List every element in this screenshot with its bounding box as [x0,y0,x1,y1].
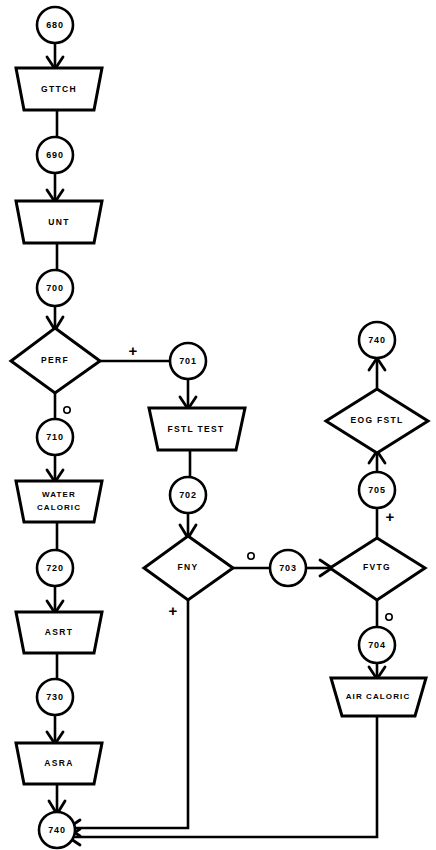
edge-air-740-return [70,716,377,837]
connector-label-720: 720 [46,563,64,573]
connector-node-730[interactable]: 730 [37,679,73,715]
connector-label-705: 705 [368,485,386,495]
process-label-water-caloric-line1: WATER [42,490,76,499]
connector-label-680: 680 [46,20,64,30]
connector-label-740-end: 740 [48,825,66,835]
process-node-air-caloric[interactable]: AIR CALORIC [331,678,426,716]
connector-node-700[interactable]: 700 [37,270,73,306]
connector-node-703[interactable]: 703 [270,550,306,586]
connector-label-703: 703 [279,563,297,573]
branch-marker-fny-zero-icon [248,553,254,559]
flowchart-canvas: GTTCH UNT PERF WATER CALORIC ASRT ASRA [0,0,436,850]
process-node-unt[interactable]: UNT [16,201,102,243]
connector-node-720[interactable]: 720 [37,550,73,586]
process-label-gttch: GTTCH [41,84,77,94]
decision-node-fvtg[interactable]: FVTG [330,538,425,600]
flowchart-diagram: GTTCH UNT PERF WATER CALORIC ASRT ASRA [0,0,436,850]
decision-node-fny[interactable]: FNY [144,536,233,600]
branch-marker-perf-zero-icon [64,407,70,413]
connector-node-701[interactable]: 701 [170,343,206,379]
connector-label-700: 700 [46,283,64,293]
process-label-fstl-test: FSTL TEST [168,424,225,434]
branch-marker-fvtg-zero-icon [386,614,392,620]
connector-node-705[interactable]: 705 [359,472,395,508]
connector-label-710: 710 [46,432,64,442]
branch-label-fny-plus: + [169,602,178,619]
connector-node-740-end[interactable]: 740 [39,812,75,848]
decision-node-perf[interactable]: PERF [11,328,100,393]
branch-label-fvtg-plus: + [386,508,395,525]
decision-label-eog-fstl: EOG FSTL [351,415,404,425]
process-label-water-caloric-line2: CALORIC [37,503,81,512]
decision-label-fvtg: FVTG [363,562,391,572]
decision-label-perf: PERF [41,355,69,365]
process-label-air-caloric: AIR CALORIC [346,692,411,701]
connector-label-704: 704 [368,640,386,650]
process-node-gttch[interactable]: GTTCH [16,68,102,110]
connector-node-710[interactable]: 710 [37,419,73,455]
process-node-asra[interactable]: ASRA [16,743,102,784]
process-node-fstl-test[interactable]: FSTL TEST [149,408,245,450]
connector-label-702: 702 [179,490,197,500]
connector-label-730: 730 [46,692,64,702]
branch-label-perf-plus: + [129,342,138,359]
connector-node-740-top[interactable]: 740 [359,322,395,358]
connector-node-704[interactable]: 704 [359,627,395,663]
decision-label-fny: FNY [178,562,199,572]
connector-node-690[interactable]: 690 [37,137,73,173]
connector-node-702[interactable]: 702 [170,477,206,513]
connector-label-690: 690 [46,150,64,160]
process-label-asrt: ASRT [45,627,73,637]
connector-label-740-top: 740 [368,335,386,345]
process-label-asra: ASRA [44,758,73,768]
process-label-unt: UNT [48,217,69,227]
connector-node-680[interactable]: 680 [37,7,73,43]
process-node-asrt[interactable]: ASRT [16,612,102,653]
process-node-water-caloric[interactable]: WATER CALORIC [16,481,102,522]
decision-node-eog-fstl[interactable]: EOG FSTL [326,389,428,453]
connector-label-701: 701 [179,356,197,366]
